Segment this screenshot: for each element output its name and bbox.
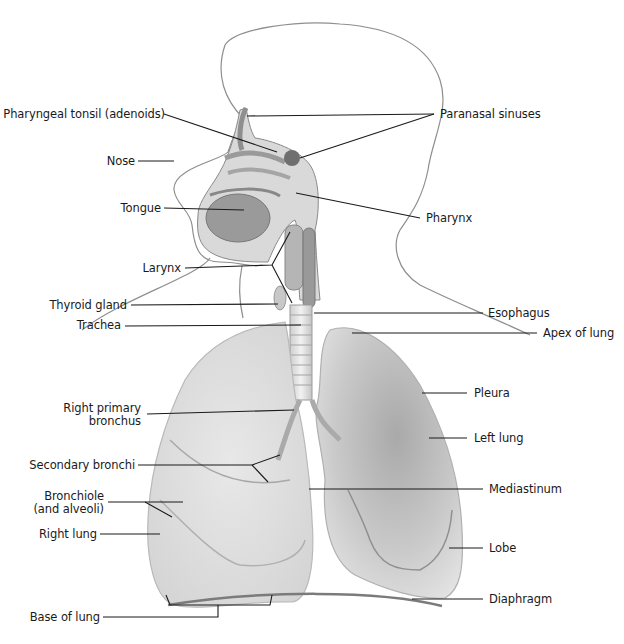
label-esophagus: Esophagus	[488, 307, 550, 320]
label-right-lung: Right lung	[39, 528, 97, 541]
label-secondary-bronchi: Secondary bronchi	[29, 459, 135, 472]
label-pleura: Pleura	[474, 387, 510, 400]
label-lobe: Lobe	[489, 542, 516, 555]
label-tongue: Tongue	[121, 202, 161, 215]
label-nose: Nose	[107, 155, 135, 168]
label-right-primary-bronchus: Right primary bronchus	[63, 402, 141, 428]
label-pharynx: Pharynx	[426, 212, 472, 225]
label-larynx: Larynx	[143, 262, 181, 275]
label-base-of-lung: Base of lung	[30, 611, 100, 624]
label-bronchiole: Bronchiole (and alveoli)	[33, 490, 104, 516]
label-pharyngeal-tonsil: Pharyngeal tonsil (adenoids)	[3, 108, 165, 121]
label-paranasal-sinuses: Paranasal sinuses	[440, 108, 541, 121]
label-mediastinum: Mediastinum	[489, 483, 562, 496]
left-lung-shape	[316, 328, 462, 598]
label-thyroid-gland: Thyroid gland	[49, 299, 127, 312]
label-left-lung: Left lung	[474, 432, 523, 445]
label-apex-of-lung: Apex of lung	[543, 327, 614, 340]
label-diaphragm: Diaphragm	[489, 593, 552, 606]
label-trachea: Trachea	[77, 319, 121, 332]
